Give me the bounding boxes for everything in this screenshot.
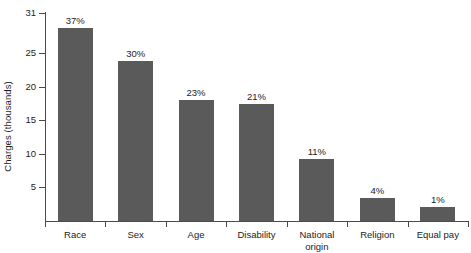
y-axis-tick-label-text: 10 (12, 148, 36, 159)
y-axis-tick-mark (39, 120, 46, 121)
x-axis-category-label: Religion (347, 229, 407, 241)
y-axis-tick-label-text: 25 (12, 47, 36, 58)
bar-value-label: 11% (287, 146, 347, 157)
bar (179, 100, 214, 221)
y-axis-tick-label: 20 (12, 81, 36, 93)
x-axis-tick-mark (226, 221, 227, 227)
y-axis-tick-mark (39, 87, 46, 88)
bar-value-label: 23% (166, 87, 226, 98)
y-axis-tick-label-text: 20 (12, 81, 36, 92)
y-axis-tick-label-text: 5 (12, 181, 36, 192)
bar-value-label: 1% (408, 194, 468, 205)
y-axis-tick-label: 10 (12, 148, 36, 160)
y-axis-line (45, 12, 46, 222)
bar (118, 61, 153, 221)
x-axis-category-label: Equal pay (408, 229, 468, 241)
x-axis-tick-mark (287, 221, 288, 227)
bar-value-label: 4% (347, 185, 407, 196)
x-axis-tick-mark (468, 221, 469, 227)
y-axis-tick-mark (39, 187, 46, 188)
x-axis-category-label: National origin (287, 229, 347, 252)
y-axis-title: Charges (thousands) (0, 0, 16, 253)
y-axis-tick-label: 31 (12, 7, 36, 19)
x-axis-line (45, 221, 468, 222)
bar (299, 159, 334, 221)
y-axis-tick-mark (39, 53, 46, 54)
x-axis-category-label: Sex (105, 229, 165, 241)
x-axis-tick-mark (408, 221, 409, 227)
bar (239, 104, 274, 221)
y-axis-tick-mark (39, 154, 46, 155)
x-axis-tick-mark (166, 221, 167, 227)
y-axis-tick-label: 25 (12, 47, 36, 59)
y-axis-tick-label: 5 (12, 181, 36, 193)
x-axis-tick-mark (45, 221, 46, 227)
bar (360, 198, 395, 221)
bar (58, 28, 93, 221)
y-axis-tick-label: 15 (12, 114, 36, 126)
x-axis-category-label: Disability (226, 229, 286, 241)
y-axis-tick-label-text: 15 (12, 114, 36, 125)
x-axis-category-label: Race (45, 229, 105, 241)
x-axis-tick-mark (105, 221, 106, 227)
bar-value-label: 21% (226, 91, 286, 102)
x-axis-tick-mark (347, 221, 348, 227)
bar-chart: Charges (thousands) 51015202531 37%30%23… (0, 0, 471, 253)
bar (420, 207, 455, 221)
x-axis-category-label: Age (166, 229, 226, 241)
bar-value-label: 30% (105, 48, 165, 59)
bar-value-label: 37% (45, 15, 105, 26)
y-axis-tick-label-text: 31 (12, 7, 36, 18)
